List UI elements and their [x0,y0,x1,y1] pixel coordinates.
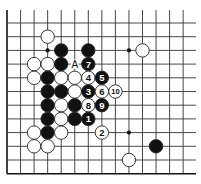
annotations: A [71,59,79,70]
white-stone [55,126,68,139]
move-number-label: 4 [86,72,92,83]
move-number-label: 8 [86,100,91,111]
black-stone-icon [149,140,162,153]
go-board-diagram: 74536108912 A [0,0,201,184]
point-label-a: A [71,59,78,70]
white-stone-icon [41,140,54,153]
white-stone-icon [55,71,68,84]
star-point-dot [46,48,50,52]
black-stone [68,99,81,112]
black-stone-icon [41,126,54,139]
white-stone-move-10: 10 [109,85,122,98]
white-stone-icon [122,153,135,166]
white-stone [41,140,54,153]
move-number-label: 2 [99,127,104,138]
move-number-label: 1 [86,113,92,124]
star-point-dot [127,131,131,135]
black-stone-icon [41,99,54,112]
black-stone-icon [41,85,54,98]
white-stone-move-2: 2 [95,126,108,139]
move-number-label: 9 [99,100,104,111]
black-stone [82,44,95,57]
black-stone-icon [41,112,54,125]
white-stone [27,126,40,139]
black-stone [41,85,54,98]
move-number-label: 10 [111,87,119,96]
black-stone-move-5: 5 [95,71,108,84]
white-stone-move-4: 4 [82,71,95,84]
black-stone-icon [55,85,68,98]
white-stone-icon [68,71,81,84]
black-stone-icon [55,44,68,57]
white-stone-move-6: 6 [95,85,108,98]
white-stone [27,57,40,70]
move-number-label: 5 [99,72,105,83]
move-number-label: 7 [86,59,91,70]
white-stone [122,153,135,166]
move-number-label: 6 [99,86,104,97]
black-stone-icon [41,71,54,84]
white-stone [136,44,149,57]
white-stone-move-8: 8 [82,99,95,112]
black-stone-move-9: 9 [95,99,108,112]
white-stone [55,71,68,84]
black-stone [55,57,68,70]
move-number-label: 3 [86,86,91,97]
white-stone-icon [68,85,81,98]
white-stone-icon [55,112,68,125]
white-stone-icon [55,126,68,139]
black-stone [41,112,54,125]
white-stone-icon [55,99,68,112]
black-stone [41,126,54,139]
white-stone-icon [27,140,40,153]
white-stone [55,112,68,125]
black-stone [68,112,81,125]
black-stone-icon [68,112,81,125]
black-stone-move-1: 1 [82,112,95,125]
white-stone-icon [136,44,149,57]
black-stone [41,99,54,112]
black-stone-move-3: 3 [82,85,95,98]
white-stone [68,71,81,84]
white-stone-icon [27,57,40,70]
black-stone-move-7: 7 [82,57,95,70]
white-stone-icon [27,71,40,84]
black-stone-icon [68,99,81,112]
white-stone [41,57,54,70]
black-stone-icon [82,44,95,57]
white-stone [55,99,68,112]
white-stone [27,71,40,84]
black-stone [149,140,162,153]
white-stone [68,85,81,98]
black-stone [41,71,54,84]
black-stone [55,85,68,98]
white-stone-icon [41,30,54,43]
black-stone-icon [55,57,68,70]
star-point-dot [127,48,131,52]
black-stone [55,44,68,57]
white-stone [27,140,40,153]
white-stone-icon [27,126,40,139]
white-stone [41,30,54,43]
white-stone-icon [41,57,54,70]
